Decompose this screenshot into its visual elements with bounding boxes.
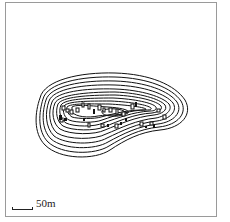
scale-bar — [12, 207, 33, 210]
scale-label: 50m — [36, 197, 56, 209]
contour-map — [0, 0, 230, 222]
